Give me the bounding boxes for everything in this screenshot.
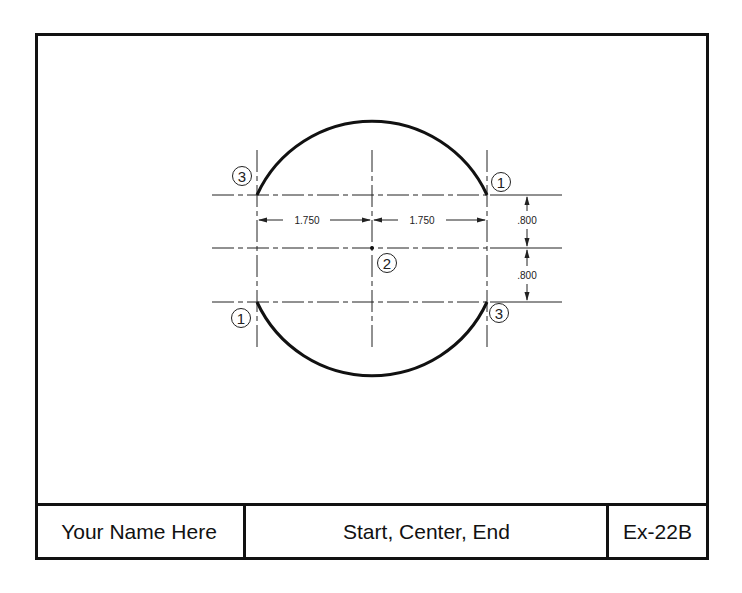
title-block-title: Start, Center, End [246, 506, 607, 557]
title-block-number: Ex-22B [609, 506, 706, 557]
dimension-text-top: .800 [517, 215, 537, 226]
point-label-bottom-right: 3 [495, 305, 503, 322]
center-point-icon [370, 246, 374, 250]
extension-lines [490, 195, 562, 302]
point-label-bottom-left: 1 [237, 310, 245, 327]
point-label-center: 2 [383, 255, 391, 272]
drawing-sheet: 1.750 1.750 .800 .800 [0, 0, 742, 593]
dimension-text-bottom: .800 [517, 270, 537, 281]
point-label-top-left: 3 [238, 168, 246, 185]
dimension-text-right: 1.750 [409, 215, 434, 226]
center-lines [212, 150, 487, 350]
point-label-top-right: 1 [497, 174, 505, 191]
title-block-name: Your Name Here [35, 506, 243, 557]
dimension-text-left: 1.750 [294, 215, 319, 226]
title-block: Your Name Here Start, Center, End Ex-22B [35, 503, 709, 557]
